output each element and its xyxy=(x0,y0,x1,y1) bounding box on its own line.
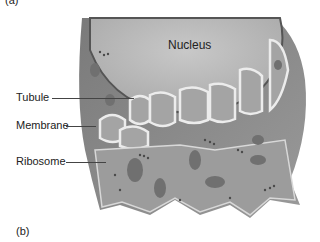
membrane-leader-line xyxy=(66,126,96,127)
panel-label-a: (a) xyxy=(5,0,18,6)
nucleus-label: Nucleus xyxy=(168,38,211,52)
tubule-leader-line xyxy=(52,98,134,99)
membrane-label: Membrane xyxy=(16,119,69,131)
panel-label-b: (b) xyxy=(16,225,29,237)
ribosome-leader-line xyxy=(66,162,106,163)
tubule-label: Tubule xyxy=(16,91,49,103)
ribosome-label: Ribosome xyxy=(16,155,66,167)
